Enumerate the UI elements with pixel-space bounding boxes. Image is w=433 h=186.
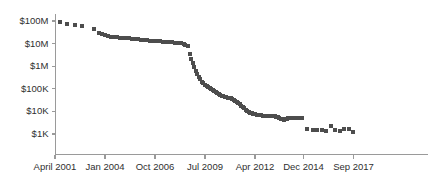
y-axis: $100M$10M$1M$100K$10K$1K — [19, 14, 55, 155]
y-tick-label: $100M — [19, 15, 48, 26]
data-point — [315, 128, 319, 132]
y-tick-label-group: $100M$10M$1M$100K$10K$1K — [19, 15, 49, 139]
x-tick-label: Oct 2006 — [136, 161, 175, 172]
x-tick-label: April 2001 — [34, 161, 77, 172]
y-tick-label: $100K — [21, 83, 49, 94]
x-tick-label: Dec 2014 — [283, 161, 324, 172]
x-tick-label: Apr 2012 — [236, 161, 275, 172]
data-point — [320, 128, 324, 132]
data-point — [324, 129, 328, 133]
cost-trend-chart: $100M$10M$1M$100K$10K$1K April 2001Jan 2… — [0, 0, 433, 186]
data-point — [338, 129, 342, 133]
data-point-group — [58, 20, 356, 134]
x-tick-label: Sep 2017 — [333, 161, 374, 172]
data-point — [305, 127, 309, 131]
data-point — [351, 130, 355, 134]
data-point — [73, 23, 77, 27]
data-point — [188, 52, 192, 56]
data-point — [186, 44, 190, 48]
y-tick-label: $1K — [32, 128, 50, 139]
chart-plot-area: $100M$10M$1M$100K$10K$1K April 2001Jan 2… — [0, 0, 433, 186]
data-point — [300, 116, 304, 120]
x-tick-label: Jan 2004 — [85, 161, 124, 172]
data-point — [329, 124, 333, 128]
data-point — [191, 61, 195, 65]
data-point — [311, 128, 315, 132]
data-point — [194, 69, 198, 73]
x-tick-label: Jul 2009 — [187, 161, 223, 172]
x-tick-label-group: April 2001Jan 2004Oct 2006Jul 2009Apr 20… — [34, 161, 374, 172]
data-point — [333, 128, 337, 132]
data-point — [189, 57, 193, 61]
data-point — [342, 127, 346, 131]
y-tick-label: $1M — [30, 60, 49, 71]
y-tick-label: $10M — [25, 38, 49, 49]
data-point — [80, 24, 84, 28]
data-point — [58, 20, 62, 24]
data-point — [347, 127, 351, 131]
data-point — [192, 65, 196, 69]
x-axis: April 2001Jan 2004Oct 2006Jul 2009Apr 20… — [34, 155, 428, 172]
data-point — [65, 22, 69, 26]
data-point — [92, 27, 96, 31]
y-tick-label: $10K — [26, 105, 49, 116]
